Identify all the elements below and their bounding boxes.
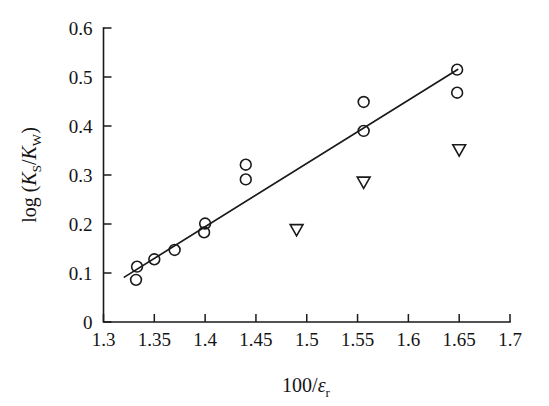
- data-point-triangle-0: [290, 225, 303, 236]
- x-tick-label-1: 1.35: [138, 329, 171, 350]
- data-point-triangle-2: [453, 145, 466, 156]
- y-axis-tick-labels: 00.10.20.30.40.50.6: [69, 18, 93, 333]
- axes-group: [104, 28, 511, 322]
- x-tick-label-4: 1.5: [295, 329, 319, 350]
- scatter-plot-figure: 1.31.351.41.451.51.551.61.651.7 00.10.20…: [0, 0, 549, 406]
- x-tick-label-7: 1.65: [443, 329, 476, 350]
- x-tick-label-8: 1.7: [498, 329, 522, 350]
- triangle-data-points: [290, 145, 465, 236]
- data-point-triangle-1: [357, 177, 370, 188]
- x-axis-ticks: [104, 314, 511, 322]
- data-point-circle-1: [131, 274, 142, 285]
- y-axis-title-prefix: log (: [18, 185, 41, 223]
- x-tick-label-2: 1.4: [193, 329, 217, 350]
- svg-text:log (KS/KW): log (KS/KW): [18, 127, 44, 223]
- x-axis-tick-labels: 1.31.351.41.451.51.551.61.651.7: [92, 329, 522, 350]
- x-axis-title-subscript: r: [326, 385, 331, 400]
- y-tick-label-1: 0.1: [69, 263, 93, 284]
- data-point-circle-11: [452, 87, 463, 98]
- x-tick-label-6: 1.6: [397, 329, 421, 350]
- y-axis-ticks: [104, 28, 112, 322]
- y-axis-title-k-numerator-sub: S: [29, 165, 44, 172]
- y-tick-label-4: 0.4: [69, 116, 93, 137]
- x-axis-title-epsilon: ε: [318, 374, 326, 396]
- plot-canvas: 1.31.351.41.451.51.551.61.651.7 00.10.20…: [0, 0, 549, 406]
- data-point-circle-6: [240, 159, 251, 170]
- x-axis-title: 100/εr: [282, 374, 330, 400]
- axis-lines: [104, 28, 511, 322]
- y-axis-title: log (KS/KW): [18, 127, 44, 223]
- y-axis-title-suffix: ): [18, 127, 41, 134]
- data-point-circle-8: [358, 97, 369, 108]
- svg-text:100/εr: 100/εr: [282, 374, 330, 400]
- y-tick-label-6: 0.6: [69, 18, 93, 39]
- x-tick-label-3: 1.45: [239, 329, 272, 350]
- regression-line: [124, 69, 457, 277]
- x-axis-title-main: 100/: [282, 374, 318, 396]
- fit-line-group: [124, 69, 457, 277]
- x-tick-label-0: 1.3: [92, 329, 116, 350]
- y-tick-label-3: 0.3: [69, 165, 93, 186]
- y-tick-label-5: 0.5: [69, 67, 93, 88]
- x-tick-label-5: 1.55: [341, 329, 374, 350]
- data-point-circle-7: [240, 174, 251, 185]
- y-axis-title-k-denominator-sub: W: [29, 133, 44, 146]
- y-tick-label-0: 0: [83, 312, 93, 333]
- y-tick-label-2: 0.2: [69, 214, 93, 235]
